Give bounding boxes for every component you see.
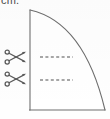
- scissors-icon-lower: [4, 71, 28, 87]
- cut-out-figure: cm.: [0, 0, 110, 119]
- quarter-circle-fill: [30, 10, 105, 110]
- scissors-icon-upper: [4, 49, 28, 65]
